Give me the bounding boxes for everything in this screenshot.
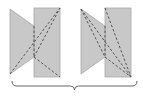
rectangle-shape (34, 8, 60, 77)
diagram-canvas (0, 0, 143, 99)
quadrilateral-shape (81, 9, 105, 74)
curly-brace (12, 81, 137, 90)
quadrilateral-shape (10, 9, 34, 74)
figure-right (81, 8, 131, 77)
figure-left (10, 8, 60, 77)
